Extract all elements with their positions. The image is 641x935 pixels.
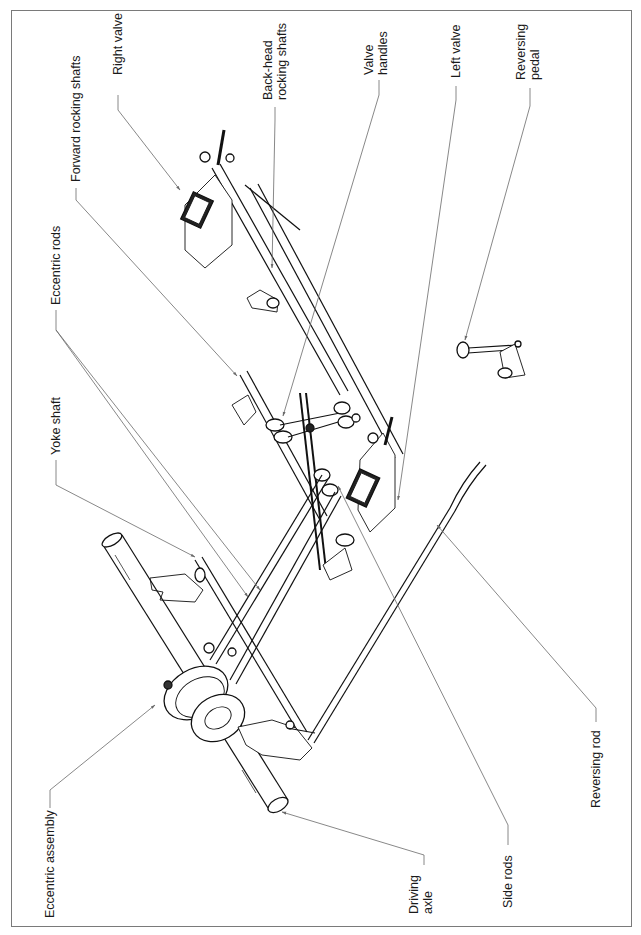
label-driving-axle-line2: axle bbox=[421, 891, 435, 914]
labels: Right valve Forward rocking shafts Back-… bbox=[43, 13, 603, 918]
label-back-head-rocking-shafts-line1: Back-head bbox=[261, 40, 275, 100]
back-head-bracket bbox=[247, 290, 279, 312]
reversing-pedal bbox=[457, 341, 525, 378]
label-eccentric-rods: Eccentric rods bbox=[49, 226, 63, 305]
back-head-rocking-shaft bbox=[212, 164, 348, 395]
label-driving-axle-line1: Driving bbox=[407, 875, 421, 914]
label-left-valve: Left valve bbox=[449, 24, 463, 78]
label-reversing-pedal-line1: Reversing bbox=[514, 24, 528, 80]
label-side-rods: Side rods bbox=[501, 855, 515, 908]
left-valve bbox=[346, 414, 395, 532]
rocking-shaft-lower bbox=[240, 371, 327, 520]
forward-bracket bbox=[232, 395, 256, 425]
right-valve bbox=[181, 130, 234, 268]
reversing-rod bbox=[308, 462, 486, 743]
label-valve-handles-line1: Valve bbox=[362, 45, 376, 75]
valve-gear-diagram: Right valve Forward rocking shafts Back-… bbox=[0, 0, 641, 935]
mechanism-drawing bbox=[100, 130, 525, 816]
label-valve-handles-line2: handles bbox=[376, 31, 390, 75]
label-reversing-rod: Reversing rod bbox=[589, 730, 603, 808]
label-forward-rocking-shafts: Forward rocking shafts bbox=[69, 56, 83, 182]
label-back-head-rocking-shafts-line2: rocking shafts bbox=[275, 23, 289, 100]
eccentric-assembly bbox=[155, 643, 254, 751]
label-reversing-pedal-line2: pedal bbox=[528, 49, 542, 80]
label-eccentric-assembly: Eccentric assembly bbox=[43, 810, 57, 918]
label-yoke-shaft: Yoke shaft bbox=[49, 397, 63, 455]
label-right-valve: Right valve bbox=[111, 13, 125, 75]
forward-rocking-shaft bbox=[245, 184, 403, 458]
